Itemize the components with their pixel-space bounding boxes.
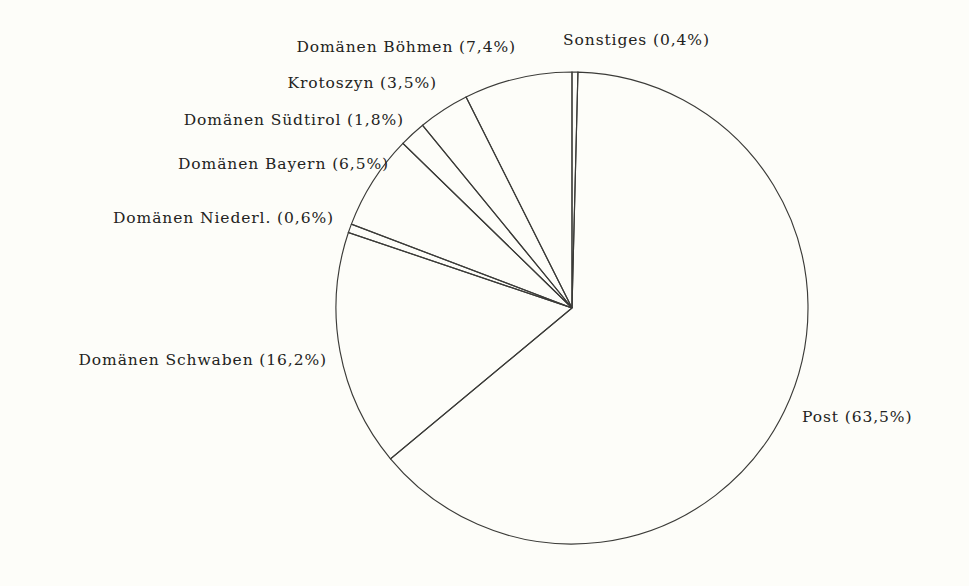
pie-slice-label: Domänen Bayern (6,5%) [178,157,389,173]
pie-slices-group [336,72,808,544]
pie-slice [336,233,572,459]
pie-slice-label: Domänen Südtirol (1,8%) [184,113,404,129]
pie-slice [423,97,572,308]
pie-chart-figure: Sonstiges (0,4%)Post (63,5%)Domänen Schw… [0,0,969,586]
pie-slice-label: Krotoszyn (3,5%) [287,76,437,92]
pie-slice-label: Domänen Schwaben (16,2%) [79,353,328,369]
pie-slice-label: Sonstiges (0,4%) [563,33,710,49]
pie-slice [466,72,572,308]
pie-slice [391,72,808,544]
pie-slice-label: Domänen Böhmen (7,4%) [296,40,516,56]
pie-slice-label: Domänen Niederl. (0,6%) [113,211,334,227]
pie-chart-canvas [0,0,969,586]
pie-slice [403,125,572,308]
pie-slice-label: Post (63,5%) [802,410,912,426]
